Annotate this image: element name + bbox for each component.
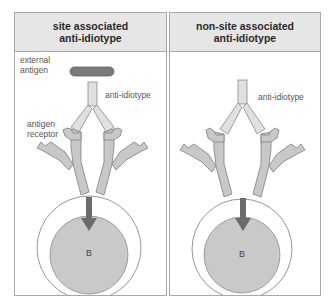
panel-title-line2: anti-idiotype: [214, 32, 276, 44]
external-antigen-label: external antigen: [20, 55, 50, 75]
panel-title-line1: non-site associated: [196, 20, 294, 32]
antigen-receptor-icon: [180, 128, 232, 197]
panel-body: anti-idiotype B: [170, 52, 320, 295]
b-cell-label: B: [239, 249, 245, 259]
antigen-receptor-icon: [253, 128, 305, 197]
panel-site-associated: site associated anti-idiotype: [14, 12, 167, 296]
external-antigen-icon: [70, 67, 114, 76]
panel-title-line2: anti-idiotype: [59, 32, 121, 44]
panel-header: site associated anti-idiotype: [15, 13, 166, 52]
anti-idiotype-label: anti-idiotype: [105, 90, 151, 100]
panel-body: external antigen anti-idiotype antigen r…: [15, 52, 166, 295]
panel-non-site-associated: non-site associated anti-idiotype: [169, 12, 321, 296]
antigen-receptor-label: antigen receptor: [27, 119, 58, 139]
panel-title-line1: site associated: [53, 20, 128, 32]
anti-idiotype-antibody-icon: [220, 80, 265, 134]
panel-header: non-site associated anti-idiotype: [170, 13, 320, 52]
antigen-receptor-icon: [96, 128, 148, 195]
diagram-site-associated: [15, 52, 166, 295]
b-cell-label: B: [86, 248, 92, 258]
anti-idiotype-label: anti-idiotype: [258, 92, 304, 102]
